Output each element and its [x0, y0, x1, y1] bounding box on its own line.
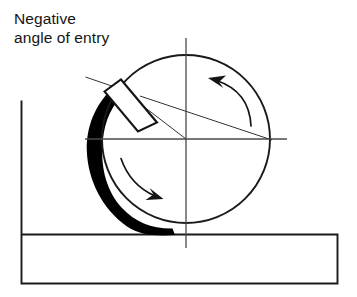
workpiece-block [22, 101, 338, 284]
negative-angle-of-entry-diagram: Negative angle of entry [0, 0, 357, 297]
rotation-arrow-lower [121, 159, 155, 197]
caption-line-1: Negative [14, 10, 76, 27]
entry-angle-line-extension [140, 96, 272, 140]
rotation-arrow-upper-head [208, 76, 226, 89]
rotation-arrow-lower-head [146, 188, 164, 200]
diagram-canvas: Negative angle of entry [0, 0, 357, 297]
rotation-arrow-upper [217, 81, 252, 127]
caption-line-2: angle of entry [14, 29, 109, 46]
